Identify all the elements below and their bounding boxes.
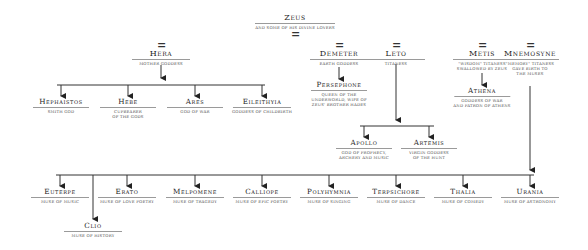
- leto-name: Leto: [367, 49, 425, 58]
- thalia-desc: MUSE OF COMEDY: [434, 199, 492, 204]
- demeter-name: Demeter: [310, 49, 368, 58]
- urania-name: Urania: [501, 187, 559, 196]
- persephone-desc-line3: ZEUS' BROTHER HADES: [311, 102, 367, 107]
- node-persephone: Persephone QUEEN OF THE UNDERWORLD, WIFE…: [311, 80, 367, 107]
- node-clio: Clio MUSE OF HISTORY: [64, 221, 122, 238]
- divider: [367, 197, 425, 198]
- node-urania: Urania MUSE OF ASTRONOMY: [501, 187, 559, 204]
- clio-desc: MUSE OF HISTORY: [64, 233, 122, 238]
- erato-desc: MUSE OF LOVE POETRY: [98, 199, 156, 204]
- divider: [310, 59, 368, 60]
- node-apollo: Apollo GOD OF PROPHECY, ARCHERY AND MUSI…: [336, 138, 392, 160]
- divider: [233, 107, 291, 108]
- artemis-name: Artemis: [401, 138, 457, 147]
- leto-desc: TITANESS: [367, 61, 425, 66]
- thalia-name: Thalia: [434, 187, 492, 196]
- divider: [167, 107, 223, 108]
- calliope-name: Calliope: [233, 187, 291, 196]
- node-zeus: Zeus AND SOME OF HIS DIVINE LOVERS =: [255, 13, 335, 38]
- divider: [31, 197, 89, 198]
- node-ares: Ares GOD OF WAR: [167, 97, 223, 114]
- calliope-desc: MUSE OF EPIC POETRY: [233, 199, 291, 204]
- euterpe-name: Euterpe: [31, 187, 89, 196]
- eileithyia-desc: GODDESS OF CHILDBIRTH: [232, 109, 292, 114]
- divider: [33, 107, 89, 108]
- node-demeter: = Demeter EARTH GODDESS: [310, 43, 368, 66]
- divider: [501, 59, 559, 60]
- urania-desc: MUSE OF ASTRONOMY: [501, 199, 559, 204]
- artemis-desc-line2: OF THE HUNT: [401, 155, 457, 160]
- divider: [336, 148, 392, 149]
- hebe-desc-line2: OF THE GODS: [100, 114, 156, 119]
- divider: [100, 107, 156, 108]
- node-melpomene: Melpomene MUSE OF TRAGEDY: [166, 187, 224, 204]
- node-artemis: Artemis VIRGIN GODDESS OF THE HUNT: [401, 138, 457, 160]
- hera-desc: MOTHER GODDESS: [132, 61, 190, 66]
- demeter-desc: EARTH GODDESS: [310, 61, 368, 66]
- hephaistos-desc: SMITH GOD: [33, 109, 89, 114]
- family-tree-diagram: Zeus AND SOME OF HIS DIVINE LOVERS = = H…: [0, 0, 588, 250]
- divider: [401, 148, 457, 149]
- zeus-name: Zeus: [255, 13, 335, 22]
- persephone-name: Persephone: [311, 80, 367, 89]
- hebe-name: Hebe: [100, 97, 156, 106]
- euterpe-desc: MUSE OF MUSIC: [31, 199, 89, 204]
- node-terpsichore: Terpsichore MUSE OF DANCE: [367, 187, 425, 204]
- eileithyia-name: Eileithyia: [232, 97, 292, 106]
- erato-name: Erato: [98, 187, 156, 196]
- athena-desc-line2: AND PATRON OF ATHENS: [453, 103, 510, 108]
- mnemosyne-desc-line3: THE MUSES: [501, 71, 559, 76]
- divider: [300, 197, 358, 198]
- clio-name: Clio: [64, 221, 122, 230]
- node-calliope: Calliope MUSE OF EPIC POETRY: [233, 187, 291, 204]
- divider: [454, 96, 510, 97]
- node-euterpe: Euterpe MUSE OF MUSIC: [31, 187, 89, 204]
- terpsichore-name: Terpsichore: [367, 187, 425, 196]
- hephaistos-name: Hephaistos: [33, 97, 89, 106]
- mnemosyne-name: Mnemosyne: [501, 49, 559, 58]
- divider: [132, 59, 190, 60]
- divider: [64, 231, 122, 232]
- divider: [367, 59, 425, 60]
- node-polyhymnia: Polyhymnia MUSE OF SINGING: [300, 187, 358, 204]
- node-hera: = Hera MOTHER GODDESS: [132, 43, 190, 66]
- divider: [233, 197, 291, 198]
- ares-desc: GOD OF WAR: [167, 109, 223, 114]
- divider: [501, 197, 559, 198]
- divider: [311, 90, 367, 91]
- hera-name: Hera: [132, 49, 190, 58]
- node-mnemosyne: = Mnemosyne "MEMORY" TITANESS GAVE BIRTH…: [501, 43, 559, 76]
- polyhymnia-desc: MUSE OF SINGING: [300, 199, 358, 204]
- apollo-desc-line2: ARCHERY AND MUSIC: [336, 155, 392, 160]
- athena-name: Athena: [453, 86, 510, 95]
- melpomene-desc: MUSE OF TRAGEDY: [166, 199, 224, 204]
- node-erato: Erato MUSE OF LOVE POETRY: [98, 187, 156, 204]
- node-thalia: Thalia MUSE OF COMEDY: [434, 187, 492, 204]
- node-eileithyia: Eileithyia GODDESS OF CHILDBIRTH: [232, 97, 292, 114]
- terpsichore-desc: MUSE OF DANCE: [367, 199, 425, 204]
- divider: [166, 197, 224, 198]
- node-hephaistos: Hephaistos SMITH GOD: [33, 97, 89, 114]
- node-leto: = Leto TITANESS: [367, 43, 425, 66]
- apollo-name: Apollo: [336, 138, 392, 147]
- divider: [98, 197, 156, 198]
- ares-name: Ares: [167, 97, 223, 106]
- divider: [434, 197, 492, 198]
- divider: [255, 23, 335, 24]
- node-hebe: Hebe CUPBEARER OF THE GODS: [100, 97, 156, 119]
- node-athena: Athena GODDESS OF WAR AND PATRON OF ATHE…: [453, 86, 510, 108]
- melpomene-name: Melpomene: [166, 187, 224, 196]
- polyhymnia-name: Polyhymnia: [300, 187, 358, 196]
- marriage-symbol: =: [255, 32, 335, 38]
